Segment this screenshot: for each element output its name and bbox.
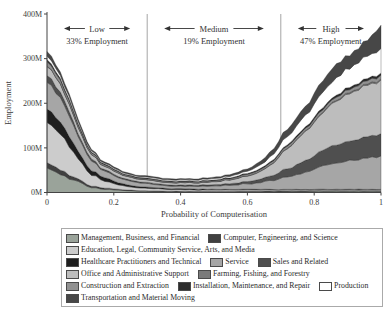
legend-label: Office and Administrative Support: [81, 268, 189, 280]
legend-label: Computer, Engineering, and Science: [223, 232, 337, 244]
legend-item-service: Service: [210, 256, 248, 268]
legend-item-sales: Sales and Related: [258, 256, 328, 268]
x-tick-label: 0.8: [309, 198, 319, 207]
legend-swatch-icon: [66, 246, 79, 255]
legend-swatch-icon: [178, 282, 191, 291]
annotation-sublabel: 19% Employment: [183, 36, 245, 46]
annotation-label: Medium: [200, 24, 229, 34]
arrow-right-icon: [258, 26, 264, 31]
legend-swatch-icon: [198, 270, 211, 279]
legend-label: Transportation and Material Moving: [81, 292, 195, 304]
x-tick-label: 1: [379, 198, 383, 207]
y-tick-label: 200M: [23, 99, 42, 108]
legend-item-farming: Farming, Fishing, and Forestry: [198, 268, 310, 280]
legend-item-healthcare: Healthcare Practitioners and Technical: [66, 256, 201, 268]
x-tick-label: 0: [45, 198, 49, 207]
y-tick-label: 300M: [23, 54, 42, 63]
legend-swatch-icon: [66, 234, 79, 243]
y-tick-label: 400M: [23, 10, 42, 19]
chart-svg: 0M100M200M300M400M00.20.40.60.81 Low33% …: [0, 0, 389, 228]
legend-swatch-icon: [258, 258, 271, 267]
legend-item-office: Office and Administrative Support: [66, 268, 189, 280]
annotation-sublabel: 33% Employment: [66, 36, 128, 46]
stacked-area-chart: 0M100M200M300M400M00.20.40.60.81 Low33% …: [0, 0, 389, 228]
x-tick-label: 0.4: [176, 198, 186, 207]
legend-label: Farming, Fishing, and Forestry: [213, 268, 310, 280]
x-tick-label: 0.6: [242, 198, 252, 207]
legend-label: Sales and Related: [273, 256, 328, 268]
legend-label: Production: [334, 280, 368, 292]
arrow-right-icon: [124, 26, 130, 31]
arrow-left-icon: [64, 26, 70, 31]
legend: Management, Business, and FinancialCompu…: [61, 228, 383, 307]
annotations: Low33% EmploymentMedium19% EmploymentHig…: [64, 24, 364, 47]
x-axis-label: Probability of Computerisation: [161, 209, 268, 219]
legend-swatch-icon: [66, 294, 79, 303]
legend-item-production: Production: [319, 280, 368, 292]
plot-area: [47, 25, 381, 192]
arrow-left-icon: [298, 26, 304, 31]
y-tick-label: 100M: [23, 144, 42, 153]
legend-item-management: Management, Business, and Financial: [66, 232, 199, 244]
legend-swatch-icon: [208, 234, 221, 243]
annotation-sublabel: 47% Employment: [300, 36, 362, 46]
x-tick-label: 0.2: [109, 198, 119, 207]
annotation-label: High: [322, 24, 340, 34]
legend-swatch-icon: [66, 282, 79, 291]
legend-label: Management, Business, and Financial: [81, 232, 199, 244]
legend-swatch-icon: [66, 270, 79, 279]
legend-swatch-icon: [210, 258, 223, 267]
annotation-label: Low: [89, 24, 105, 34]
arrow-right-icon: [358, 26, 364, 31]
y-axis-label: Employment: [3, 80, 13, 125]
legend-label: Service: [225, 256, 248, 268]
legend-item-education: Education, Legal, Community Service, Art…: [66, 244, 255, 256]
legend-swatch-icon: [319, 282, 332, 291]
legend-label: Installation, Maintenance, and Repair: [193, 280, 310, 292]
legend-swatch-icon: [66, 258, 79, 267]
legend-item-installation: Installation, Maintenance, and Repair: [178, 280, 310, 292]
legend-item-computer: Computer, Engineering, and Science: [208, 232, 337, 244]
legend-label: Education, Legal, Community Service, Art…: [81, 244, 255, 256]
y-tick-label: 0M: [31, 188, 42, 197]
arrow-left-icon: [164, 26, 170, 31]
legend-item-construction: Construction and Extraction: [66, 280, 169, 292]
legend-label: Construction and Extraction: [81, 280, 169, 292]
legend-item-transportation: Transportation and Material Moving: [66, 292, 195, 304]
legend-label: Healthcare Practitioners and Technical: [81, 256, 201, 268]
